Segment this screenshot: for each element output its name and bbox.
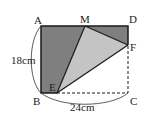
label-b: B [33,95,40,107]
geometry-figure: A M D F E B C 18cm 24cm [0,0,147,113]
label-f: F [130,41,136,53]
label-d: D [129,13,137,25]
label-a: A [34,14,42,26]
label-m: M [80,13,90,25]
label-e: E [49,81,56,93]
label-c: C [130,95,137,107]
height-label: 18cm [11,54,36,66]
width-label: 24cm [70,101,95,113]
